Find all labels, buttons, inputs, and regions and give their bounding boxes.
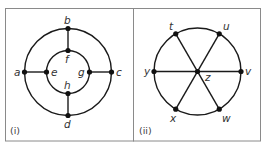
vertex-b xyxy=(65,26,70,31)
panel-ii-label: (ii) xyxy=(139,125,152,136)
label-c: c xyxy=(116,66,122,78)
label-u: u xyxy=(223,20,230,32)
vertex-u xyxy=(217,31,222,36)
label-y: y xyxy=(143,65,151,77)
label-a: a xyxy=(14,66,20,78)
panel-i-label: (i) xyxy=(10,125,20,136)
label-x: x xyxy=(169,112,177,124)
label-b: b xyxy=(64,14,71,26)
vertex-z xyxy=(195,69,200,74)
label-e: e xyxy=(51,66,57,78)
vertex-e xyxy=(44,69,49,74)
vertex-g xyxy=(87,69,92,74)
vertex-v xyxy=(238,69,243,74)
vertex-a xyxy=(22,69,27,74)
graph-figure: a b c d e f g h (i) t u v w x y z (ii) xyxy=(0,0,265,146)
label-v: v xyxy=(245,65,252,77)
vertex-h xyxy=(65,91,70,96)
label-d: d xyxy=(64,118,71,130)
panel-ii: t u v w x y z (ii) xyxy=(139,20,252,136)
label-f: f xyxy=(65,53,71,65)
label-h: h xyxy=(64,79,71,91)
panel-i: a b c d e f g h (i) xyxy=(10,14,122,136)
vertex-c xyxy=(109,69,114,74)
label-w: w xyxy=(222,112,231,124)
label-t: t xyxy=(169,20,174,32)
vertex-t xyxy=(173,31,178,36)
vertex-y xyxy=(151,69,156,74)
label-z: z xyxy=(204,71,211,83)
label-g: g xyxy=(78,66,85,78)
